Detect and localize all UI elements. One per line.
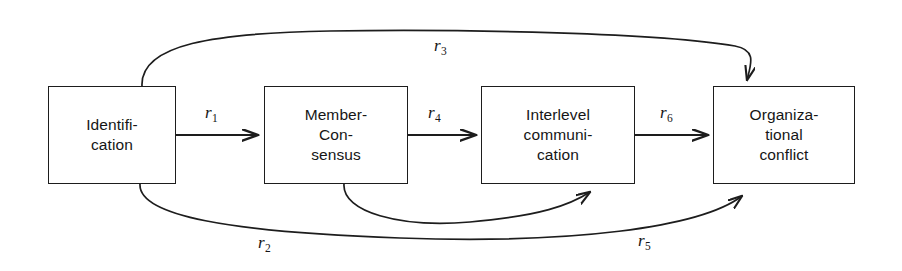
node-interlevel-communication-line-1: Interlevel	[526, 105, 590, 125]
edge-label-r1-base: r	[205, 103, 212, 122]
edge-r2	[140, 184, 742, 239]
edge-label-r4-base: r	[428, 103, 435, 122]
edge-label-r5-sub: 5	[645, 240, 651, 252]
node-member-consensus-line-1: Member-	[305, 105, 368, 125]
node-identification-line-1: Identifi-	[86, 115, 138, 135]
node-organizational-conflict-line-3: conflict	[759, 145, 808, 165]
edge-label-r1: r1	[205, 104, 217, 121]
edge-label-r6-sub: 6	[667, 112, 673, 124]
edge-r3	[142, 31, 751, 86]
node-member-consensus[interactable]: Member- Con- sensus	[264, 86, 408, 184]
edge-label-r4-sub: 4	[435, 112, 441, 124]
edge-label-r2: r2	[258, 234, 270, 251]
node-member-consensus-line-3: sensus	[311, 145, 361, 165]
path-diagram: Identifi- cation Member- Con- sensus Int…	[0, 0, 902, 271]
edge-label-r6: r6	[660, 104, 672, 121]
edge-label-r3-sub: 3	[441, 45, 447, 57]
edge-label-r1-sub: 1	[212, 112, 218, 124]
edge-label-r4: r4	[428, 104, 440, 121]
node-interlevel-communication[interactable]: Interlevel communi- cation	[481, 86, 635, 184]
node-interlevel-communication-line-2: communi-	[524, 125, 593, 145]
edge-label-r3: r3	[434, 37, 446, 54]
edge-r5	[344, 184, 590, 223]
node-member-consensus-line-2: Con-	[319, 125, 353, 145]
node-organizational-conflict-line-2: tional	[765, 125, 803, 145]
edge-label-r5: r5	[638, 232, 650, 249]
node-identification-line-2: cation	[91, 135, 133, 155]
edge-label-r2-base: r	[258, 233, 265, 252]
edge-label-r2-sub: 2	[265, 242, 271, 254]
edge-label-r5-base: r	[638, 231, 645, 250]
edge-label-r6-base: r	[660, 103, 667, 122]
node-interlevel-communication-line-3: cation	[537, 145, 579, 165]
node-organizational-conflict[interactable]: Organiza- tional conflict	[713, 86, 855, 184]
node-identification[interactable]: Identifi- cation	[48, 86, 176, 184]
node-organizational-conflict-line-1: Organiza-	[750, 105, 819, 125]
edge-label-r3-base: r	[434, 36, 441, 55]
